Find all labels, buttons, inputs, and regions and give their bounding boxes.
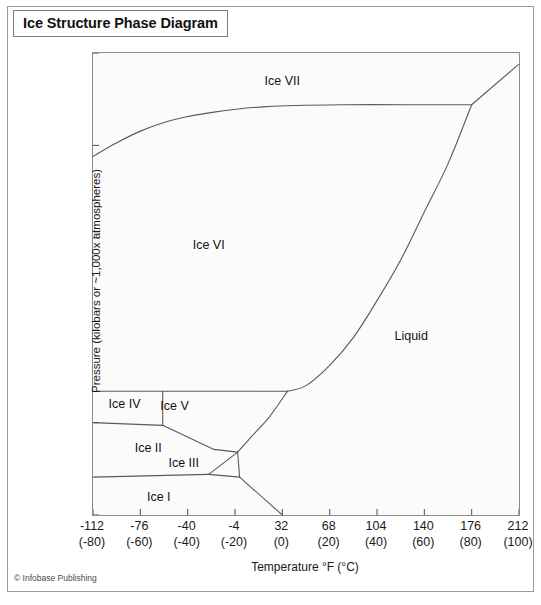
region-label-ice-vi: Ice VI [193,238,225,252]
y-axis-title: Pressure (kilobars or ~1,000x atmosphere… [90,46,102,516]
region-label-ice-ii: Ice II [135,441,162,455]
boundary-ice4-bottom [93,423,163,426]
boundary-ice5-liquid [238,391,288,452]
region-label-liquid: Liquid [394,329,427,343]
x-tick-fahrenheit: 212 [488,518,541,534]
phase-diagram-page: Ice Structure Phase Diagram Pressure (ki… [0,0,541,605]
boundary-ice2-ice3-left [209,452,238,474]
page-title: Ice Structure Phase Diagram [13,10,228,37]
boundary-ice6-liquid [288,105,472,391]
boundary-melting-curve [472,64,519,105]
x-axis-title: Temperature °F (°C) [92,560,518,574]
copyright-credit: © Infobase Publishing [14,573,97,583]
boundary-ice3-right [238,452,240,477]
region-label-ice-vii: Ice VII [265,74,300,88]
region-label-ice-i: Ice I [147,490,171,504]
region-label-ice-iii: Ice III [168,456,199,470]
x-axis-tick-labels: -112(-80)-76(-60)-40(-40)-4(-20)32(0)68(… [92,518,518,560]
plot-area: Pressure (kilobars or ~1,000x atmosphere… [92,52,520,516]
boundary-ice1-ice2 [93,474,209,477]
boundary-ice5-ice2 [163,425,214,449]
boundary-ice6-ice7 [93,105,472,157]
boundary-ice1-liquid [240,477,283,515]
boundary-ice3-ice1-bottom [209,474,240,477]
region-label-ice-iv: Ice IV [109,397,141,411]
x-tick-celsius: (100) [488,534,541,550]
boundary-ice2-ice3-top [214,449,238,452]
region-label-ice-v: Ice V [160,399,189,413]
x-tick-label: 212(100) [488,518,541,550]
